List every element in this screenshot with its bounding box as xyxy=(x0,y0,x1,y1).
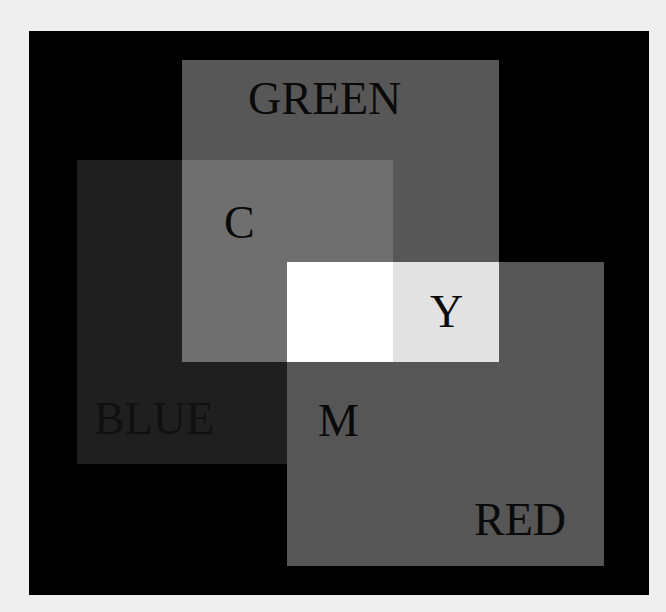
green-label: GREEN xyxy=(248,76,401,122)
red-label: RED xyxy=(474,497,566,543)
white-overlap xyxy=(287,262,393,362)
blue-label: BLUE xyxy=(94,396,214,442)
magenta-label: M xyxy=(318,398,359,444)
yellow-label: Y xyxy=(430,289,463,335)
cyan-label: C xyxy=(224,200,255,246)
